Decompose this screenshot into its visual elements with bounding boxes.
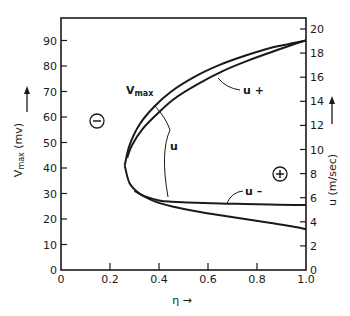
y-tick-label: 70 <box>43 86 57 99</box>
right-tick-label: 12 <box>310 119 324 132</box>
minus-sign-icon <box>90 114 104 128</box>
y-tick-label: 80 <box>43 60 57 73</box>
x-tick-label: 0.4 <box>150 273 168 286</box>
x-axis-label: η → <box>172 294 192 307</box>
curves <box>125 41 306 230</box>
right-tick-label: 14 <box>310 95 324 108</box>
plus-sign-icon <box>273 167 287 181</box>
y-tick-label: 0 <box>50 264 57 277</box>
annotation-uplus: u + <box>243 84 264 97</box>
right-axis-ticks: 02468101214161820 <box>300 23 324 277</box>
y-axis-label: Vmax (mv) <box>12 123 26 177</box>
leader-uplus <box>218 78 240 90</box>
y-axis-ticks: 0102030405060708090 <box>43 35 67 278</box>
curve-v-max-lower-branch <box>125 165 306 229</box>
chart: 00.20.40.60.81.0 0102030405060708090 024… <box>0 0 350 316</box>
curve-v-max-upper-branch <box>125 41 306 166</box>
right-tick-label: 18 <box>310 47 324 60</box>
right-axis-arrowhead-icon <box>329 96 335 104</box>
svg-text:u (m/sec): u (m/sec) <box>326 154 339 206</box>
x-tick-label: 0.6 <box>199 273 217 286</box>
x-tick-label: 0.2 <box>101 273 119 286</box>
y-tick-label: 60 <box>43 111 57 124</box>
x-axis-ticks: 00.20.40.60.81.0 <box>58 263 315 286</box>
right-tick-label: 4 <box>310 216 317 229</box>
annotation-uminus: u – <box>245 185 262 198</box>
right-tick-label: 10 <box>310 144 324 157</box>
right-tick-label: 8 <box>310 168 317 181</box>
x-tick-label: 0 <box>58 273 65 286</box>
y-tick-label: 40 <box>43 162 57 175</box>
y-tick-label: 90 <box>43 35 57 48</box>
leader-uminus <box>227 191 243 203</box>
right-tick-label: 0 <box>310 264 317 277</box>
y-axis-arrowhead-icon <box>24 86 30 94</box>
y-tick-label: 30 <box>43 188 57 201</box>
x-tick-label: 0.8 <box>248 273 266 286</box>
plot-frame <box>61 18 306 270</box>
right-tick-label: 6 <box>310 192 317 205</box>
annotation-vmax: Vmax <box>126 84 154 98</box>
annotation-u: u <box>170 140 178 153</box>
y-tick-label: 50 <box>43 137 57 150</box>
svg-text:Vmax (mv): Vmax (mv) <box>12 123 26 177</box>
right-axis-label: u (m/sec) <box>326 154 339 206</box>
right-tick-label: 20 <box>310 23 324 36</box>
y-tick-label: 10 <box>43 239 57 252</box>
curve-uplus <box>127 41 306 158</box>
right-tick-label: 16 <box>310 71 324 84</box>
y-tick-label: 20 <box>43 213 57 226</box>
right-tick-label: 2 <box>310 240 317 253</box>
